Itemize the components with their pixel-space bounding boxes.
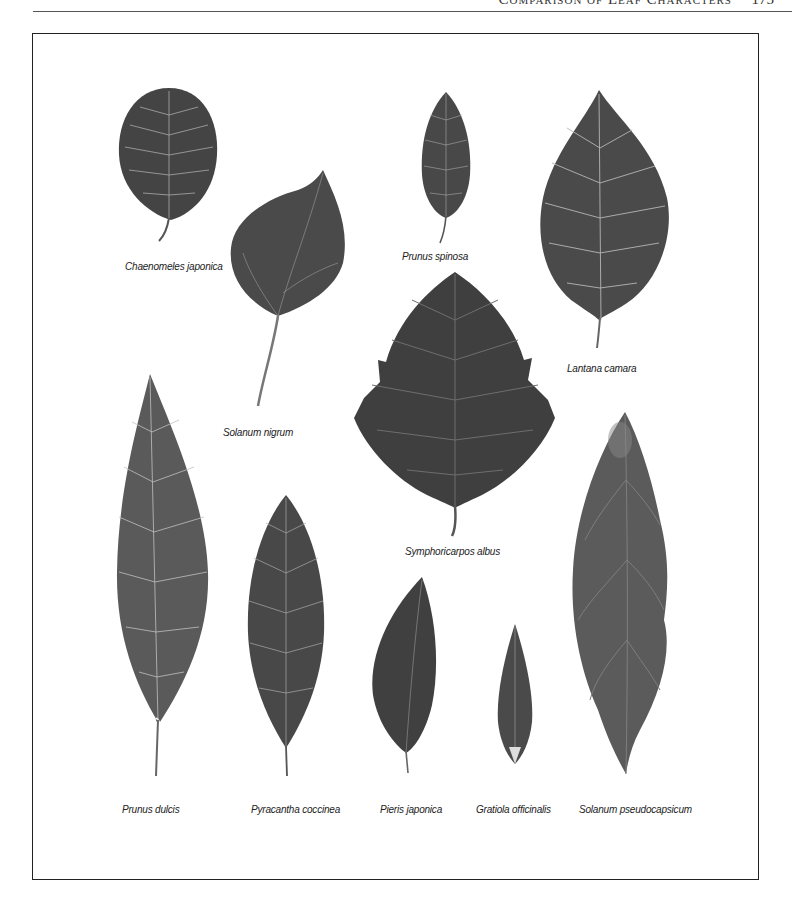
leaf-symphoricarpos-albus	[352, 270, 558, 538]
leaf-prunus-dulcis	[114, 372, 210, 778]
leaf-label: Solanum nigrum	[223, 427, 293, 438]
leaf-chaenomeles-japonica	[115, 85, 223, 245]
leaf-label: Symphoricarpos albus	[405, 546, 500, 557]
leaf-label: Gratiola officinalis	[476, 804, 551, 815]
leaf-label: Solanum pseudocapsicum	[579, 804, 692, 815]
leaf-prunus-spinosa	[418, 90, 474, 245]
leaf-pyracantha-coccinea	[244, 493, 328, 778]
header-rule	[33, 11, 792, 12]
leaf-label: Chaenomeles japonica	[125, 261, 223, 272]
leaf-label: Lantana camara	[567, 363, 636, 374]
leaf-label: Prunus dulcis	[122, 804, 179, 815]
leaf-label: Pyracantha coccinea	[251, 804, 340, 815]
leaf-pieris-japonica	[370, 575, 440, 775]
leaf-gratiola-officinalis	[492, 622, 538, 767]
page-number: 175	[752, 0, 775, 8]
running-head-title: Comparison of Leaf Characters	[499, 0, 732, 8]
leaf-label: Pieris japonica	[380, 804, 442, 815]
leaf-solanum-nigrum	[228, 168, 350, 408]
leaf-solanum-pseudocapsicum	[570, 410, 672, 778]
leaf-label: Prunus spinosa	[402, 251, 468, 262]
